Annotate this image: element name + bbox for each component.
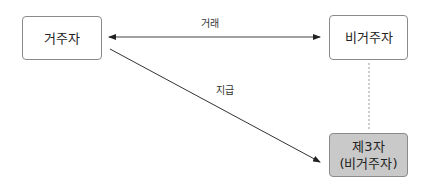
payment-label: 지급 <box>216 82 234 97</box>
resident-node: 거주자 <box>22 16 102 60</box>
third-party-label-line2: (비거주자) <box>339 155 397 172</box>
third-party-label-line1: 제3자 <box>352 138 384 155</box>
nonresident-label: 비거주자 <box>345 29 393 46</box>
third-party-node: 제3자 (비거주자) <box>329 133 408 177</box>
resident-label: 거주자 <box>44 30 80 47</box>
nonresident-node: 비거주자 <box>329 15 408 60</box>
transaction-label: 거래 <box>201 15 219 30</box>
payment-arrow <box>110 49 320 162</box>
